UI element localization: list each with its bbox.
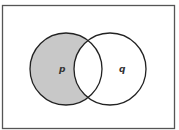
set-q-label: q <box>119 64 126 74</box>
set-p-label: p <box>58 64 66 74</box>
universe-rectangle <box>3 6 175 129</box>
venn-diagram: p q <box>0 0 179 130</box>
